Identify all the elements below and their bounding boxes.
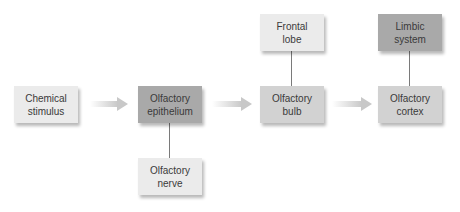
arrow-stimulus-to-epithelium-icon xyxy=(90,97,128,111)
node-label: Olfactory nerve xyxy=(150,164,190,190)
node-label: Frontal lobe xyxy=(276,20,307,46)
arrow-epithelium-to-bulb-icon xyxy=(212,97,252,111)
arrow-bulb-to-cortex-icon xyxy=(332,97,372,111)
node-label: Chemical stimulus xyxy=(25,92,67,118)
node-olfactory-nerve: Olfactory nerve xyxy=(138,158,202,195)
node-olfactory-cortex: Olfactory cortex xyxy=(378,86,442,123)
node-chemical-stimulus: Chemical stimulus xyxy=(14,86,78,123)
node-frontal-lobe: Frontal lobe xyxy=(260,14,324,51)
node-label: Olfactory bulb xyxy=(272,92,312,118)
connector-epithelium-nerve xyxy=(169,123,170,158)
node-label: Olfactory epithelium xyxy=(147,92,193,118)
node-olfactory-bulb: Olfactory bulb xyxy=(260,86,324,123)
node-limbic-system: Limbic system xyxy=(378,14,442,51)
node-olfactory-epithelium: Olfactory epithelium xyxy=(138,86,202,123)
node-label: Limbic system xyxy=(394,20,426,46)
node-label: Olfactory cortex xyxy=(390,92,430,118)
connector-cortex-limbic-system xyxy=(409,51,410,86)
connector-bulb-frontal-lobe xyxy=(291,51,292,86)
